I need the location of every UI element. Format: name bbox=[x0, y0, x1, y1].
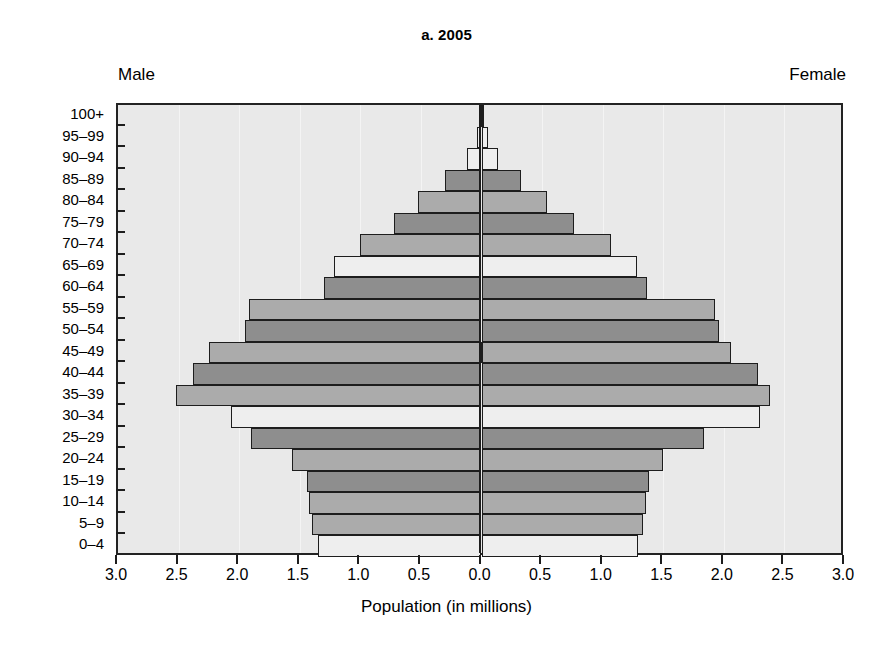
bar-male bbox=[360, 234, 481, 256]
x-axis-tick bbox=[115, 555, 117, 564]
bar-female bbox=[482, 449, 664, 471]
bar-female bbox=[482, 127, 488, 149]
y-axis-tick-label: 100+ bbox=[70, 103, 104, 125]
bar-male bbox=[176, 385, 481, 407]
y-axis-tick bbox=[116, 167, 125, 169]
x-axis-ticks bbox=[116, 555, 843, 564]
center-axis-line bbox=[479, 105, 481, 553]
bar-male bbox=[245, 320, 481, 342]
bar-female bbox=[482, 363, 758, 385]
y-axis-tick-label: 30–34 bbox=[62, 404, 104, 426]
x-axis-tick-label: 2.5 bbox=[147, 566, 207, 584]
bar-male bbox=[309, 492, 481, 514]
bar-female bbox=[482, 428, 705, 450]
y-axis-tick-label: 25–29 bbox=[62, 426, 104, 448]
bar-male bbox=[249, 299, 482, 321]
x-axis-tick bbox=[660, 555, 662, 564]
bar-male bbox=[292, 449, 481, 471]
bar-female bbox=[482, 105, 484, 127]
y-axis-tick bbox=[116, 210, 125, 212]
x-axis-tick bbox=[176, 555, 178, 564]
x-axis-tick-label: 2.0 bbox=[207, 566, 267, 584]
bar-female bbox=[482, 514, 643, 536]
y-axis-ticks bbox=[116, 103, 126, 555]
bar-female bbox=[482, 535, 638, 557]
y-axis-tick bbox=[116, 317, 125, 319]
y-axis-tick bbox=[116, 360, 125, 362]
x-axis-tick bbox=[236, 555, 238, 564]
x-axis-tick-label: 1.5 bbox=[268, 566, 328, 584]
y-axis-tick bbox=[116, 339, 125, 341]
y-axis-tick-label: 60–64 bbox=[62, 275, 104, 297]
y-axis-tick-label: 75–79 bbox=[62, 211, 104, 233]
bar-male bbox=[251, 428, 481, 450]
bar-female bbox=[482, 299, 716, 321]
bar-female bbox=[482, 256, 637, 278]
x-axis-tick bbox=[539, 555, 541, 564]
y-axis-tick bbox=[116, 274, 125, 276]
y-axis-tick-label: 55–59 bbox=[62, 297, 104, 319]
x-axis-tick bbox=[479, 555, 481, 564]
x-axis-tick bbox=[418, 555, 420, 564]
x-axis-tick-label: 0.0 bbox=[450, 566, 510, 584]
x-axis-tick bbox=[721, 555, 723, 564]
bar-male bbox=[231, 406, 482, 428]
y-axis-tick-label: 70–74 bbox=[62, 232, 104, 254]
bar-male bbox=[209, 342, 482, 364]
bar-male bbox=[318, 535, 482, 557]
y-axis-tick-label: 20–24 bbox=[62, 447, 104, 469]
x-axis-tick-label: 1.0 bbox=[328, 566, 388, 584]
y-axis-tick-label: 40–44 bbox=[62, 361, 104, 383]
bar-male bbox=[394, 213, 481, 235]
x-axis-tick-label: 2.5 bbox=[752, 566, 812, 584]
y-axis-tick bbox=[116, 532, 125, 534]
plot-area bbox=[116, 103, 843, 555]
x-axis-tick bbox=[842, 555, 844, 564]
x-axis-tick-label: 0.5 bbox=[510, 566, 570, 584]
x-axis-tick bbox=[357, 555, 359, 564]
x-axis-tick-label: 3.0 bbox=[86, 566, 146, 584]
bar-male bbox=[193, 363, 481, 385]
y-axis-tick-label: 90–94 bbox=[62, 146, 104, 168]
y-axis-tick bbox=[116, 403, 125, 405]
y-axis-tick bbox=[116, 253, 125, 255]
bar-female bbox=[482, 342, 732, 364]
y-axis-tick-label: 15–19 bbox=[62, 469, 104, 491]
bar-female bbox=[482, 320, 719, 342]
bar-female bbox=[482, 492, 647, 514]
y-axis-tick bbox=[116, 124, 125, 126]
y-axis-tick bbox=[116, 425, 125, 427]
bar-female bbox=[482, 277, 648, 299]
y-axis-tick bbox=[116, 188, 125, 190]
chart-title: a. 2005 bbox=[0, 26, 893, 43]
y-axis-tick-label: 95–99 bbox=[62, 125, 104, 147]
bar-female bbox=[482, 385, 770, 407]
y-axis-tick-label: 85–89 bbox=[62, 168, 104, 190]
y-axis-tick bbox=[116, 446, 125, 448]
y-axis-tick bbox=[116, 145, 125, 147]
bar-male bbox=[418, 191, 481, 213]
bar-female bbox=[482, 191, 547, 213]
y-axis-tick bbox=[116, 231, 125, 233]
x-axis-tick-labels: 3.02.52.01.51.00.50.00.51.01.52.02.53.0 bbox=[116, 566, 843, 588]
y-axis-tick-label: 0–4 bbox=[79, 533, 104, 555]
x-axis-tick-label: 3.0 bbox=[813, 566, 873, 584]
y-axis-tick-label: 45–49 bbox=[62, 340, 104, 362]
x-axis-tick bbox=[781, 555, 783, 564]
y-axis-tick bbox=[116, 511, 125, 513]
bar-male bbox=[312, 514, 482, 536]
population-pyramid-figure: a. 2005 Male Female 100+95–9990–9485–898… bbox=[0, 0, 893, 665]
bar-female bbox=[482, 471, 649, 493]
female-axis-label: Female bbox=[789, 65, 846, 85]
y-axis-tick-label: 35–39 bbox=[62, 383, 104, 405]
y-axis-tick-label: 10–14 bbox=[62, 490, 104, 512]
bar-male bbox=[445, 170, 481, 192]
x-axis-title: Population (in millions) bbox=[0, 597, 893, 617]
y-axis-tick-label: 65–69 bbox=[62, 254, 104, 276]
y-axis-tick-label: 80–84 bbox=[62, 189, 104, 211]
x-axis-tick-label: 0.5 bbox=[389, 566, 449, 584]
x-axis-tick-label: 1.5 bbox=[631, 566, 691, 584]
y-axis-labels: 100+95–9990–9485–8980–8475–7970–7465–696… bbox=[0, 103, 112, 555]
bar-male bbox=[324, 277, 482, 299]
bar-female bbox=[482, 170, 522, 192]
